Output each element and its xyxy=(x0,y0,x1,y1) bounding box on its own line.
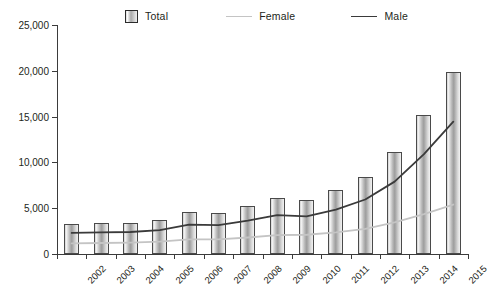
x-axis-tick xyxy=(351,254,352,259)
legend-label-female: Female xyxy=(259,10,295,22)
x-axis-tick xyxy=(116,254,117,259)
x-axis-tick-label: 2009 xyxy=(290,263,313,286)
x-axis-tick xyxy=(439,254,440,259)
x-axis-tick xyxy=(174,254,175,259)
x-axis-tick xyxy=(321,254,322,259)
x-axis-tick xyxy=(292,254,293,259)
legend-item-total[interactable]: Total xyxy=(125,10,168,23)
legend-label-total: Total xyxy=(145,10,168,22)
chart-legend: Total Female Male xyxy=(125,7,425,25)
x-axis-tick-label: 2013 xyxy=(408,263,431,286)
x-axis-tick-label: 2014 xyxy=(437,263,460,286)
x-axis-tick-label: 2002 xyxy=(85,263,108,286)
line-series-svg xyxy=(57,25,468,254)
x-axis-tick-label: 2007 xyxy=(232,263,255,286)
legend-item-female[interactable]: Female xyxy=(226,10,295,22)
x-axis-tick-label: 2006 xyxy=(202,263,225,286)
line-female xyxy=(72,205,454,244)
x-axis-tick-label: 2011 xyxy=(349,263,371,285)
x-axis-tick-label: 2003 xyxy=(114,263,137,286)
y-axis-tick-label: 0 xyxy=(0,249,49,260)
x-axis-tick-label: 2004 xyxy=(144,263,167,286)
line-swatch-icon-female xyxy=(226,16,252,17)
x-axis-tick xyxy=(233,254,234,259)
x-axis-tick-label: 2005 xyxy=(173,263,196,286)
x-axis-tick xyxy=(380,254,381,259)
x-axis-tick-label: 2012 xyxy=(378,263,401,286)
x-axis-tick xyxy=(263,254,264,259)
y-axis-tick-label: 20,000 xyxy=(0,65,49,76)
legend-label-male: Male xyxy=(384,10,408,22)
x-axis-tick xyxy=(86,254,87,259)
x-axis-tick-label: 2015 xyxy=(467,263,489,286)
line-swatch-icon-male xyxy=(351,16,377,17)
y-axis-labels: 05,00010,00015,00020,00025,000 xyxy=(0,0,50,294)
x-axis-tick xyxy=(468,254,469,259)
x-axis-tick-label: 2008 xyxy=(261,263,284,286)
x-axis-tick xyxy=(57,254,58,259)
x-axis-tick xyxy=(145,254,146,259)
x-axis-tick xyxy=(204,254,205,259)
x-axis-tick xyxy=(409,254,410,259)
y-axis-tick-label: 15,000 xyxy=(0,111,49,122)
x-axis-tick-label: 2010 xyxy=(320,263,343,286)
y-axis-tick-label: 5,000 xyxy=(0,203,49,214)
legend-item-male[interactable]: Male xyxy=(351,10,408,22)
line-series-layer xyxy=(57,25,468,254)
y-axis-tick-label: 25,000 xyxy=(0,20,49,31)
box-swatch-icon xyxy=(125,10,138,23)
y-axis-tick-label: 10,000 xyxy=(0,157,49,168)
line-male xyxy=(72,122,454,233)
